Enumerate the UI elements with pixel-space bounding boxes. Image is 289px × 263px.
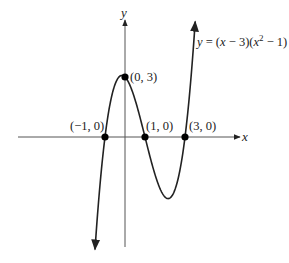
point-marker	[141, 133, 148, 140]
point-label: (0, 3)	[130, 70, 157, 84]
x-axis-label: x	[241, 129, 248, 144]
equation-suffix: − 1)	[264, 35, 288, 49]
point-label: (−1, 0)	[70, 119, 104, 133]
equation-part: = (	[203, 35, 220, 49]
y-axis-label: y	[119, 5, 127, 20]
point-label: (1, 0)	[146, 119, 173, 133]
equation-label: y = (x − 3)(x2 − 1)	[195, 33, 287, 49]
point-marker	[121, 73, 128, 80]
point-label: (3, 0)	[189, 119, 216, 133]
point-marker	[181, 133, 188, 140]
point-marker	[101, 133, 108, 140]
function-graph: x y (−1, 0)(0, 3)(1, 0)(3, 0) y = (x − 3…	[0, 0, 289, 263]
equation-mid: − 3)(	[226, 35, 254, 49]
